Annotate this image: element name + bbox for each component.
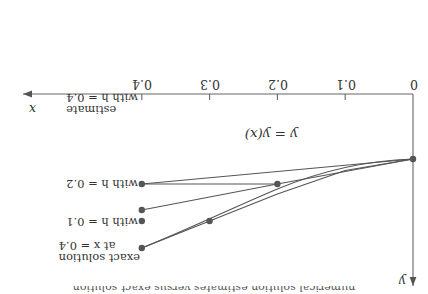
annotation-h-0.2: with h = 0.2 [66, 178, 138, 190]
annotation-exact-line2: at x = 0.4 [59, 239, 140, 251]
marker-h-0.4-x-0.4 [139, 181, 145, 187]
y-axis-arrowhead [410, 277, 417, 286]
curve-estimate-h-0.4 [142, 159, 413, 184]
x-axis-ticks [142, 94, 345, 100]
annotation-h-0.4: estimate with h = 0.4 [66, 91, 138, 116]
annotation-h-0.1-line2: with h = 0.1 [66, 216, 138, 228]
data-point-markers [139, 156, 417, 251]
x-tick-label-0.3: 0.3 [200, 78, 220, 92]
x-axis-arrowhead [23, 91, 32, 98]
marker-h-0.1-x-0.4 [139, 218, 145, 224]
annotation-h-0.4-line1: estimate [66, 104, 138, 116]
marker-h-0.1-x-0.3 [206, 218, 212, 224]
curve-label-exact: y = y(x) [245, 127, 298, 142]
marker-h-0.2-x-0.2 [274, 181, 280, 187]
x-axis-label: x [29, 103, 36, 117]
x-tick-label-0: 0 [410, 78, 418, 92]
annotation-exact-solution: exact solution at x = 0.4 [59, 239, 140, 264]
annotation-exact-line1: exact solution [59, 252, 140, 264]
x-tick-label-0.4: 0.4 [132, 78, 152, 92]
x-tick-label-0.2: 0.2 [268, 78, 288, 92]
marker-h-0.2-x-0.4 [139, 207, 145, 213]
y-axis [410, 94, 417, 286]
annotation-h-0.4-line2: with h = 0.4 [66, 91, 138, 103]
annotation-h-0.1: with h = 0.1 [66, 216, 138, 228]
clipped-caption-text: numerical solution estimates versus exac… [0, 286, 428, 294]
annotation-h-0.2-line2: with h = 0.2 [66, 178, 138, 190]
rotated-figure-group: x y 0 0.1 0.2 0.3 0.4 y = y(x) exact sol… [0, 0, 428, 294]
figure-canvas: x y 0 0.1 0.2 0.3 0.4 y = y(x) exact sol… [0, 0, 428, 294]
x-tick-label-0.1: 0.1 [336, 78, 356, 92]
clipped-caption: numerical solution estimates versus exac… [0, 286, 428, 294]
curve-estimate-h-0.1 [142, 159, 413, 248]
curve-exact-solution [142, 159, 413, 248]
marker-origin [410, 156, 416, 162]
